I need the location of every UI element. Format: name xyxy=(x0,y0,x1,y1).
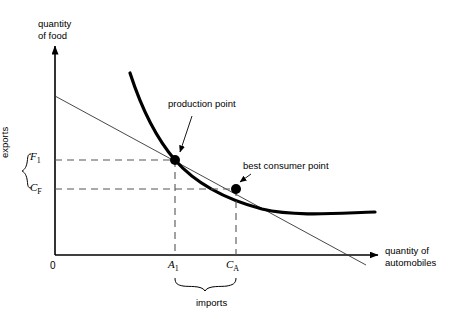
y-tick-f1-sub: 1 xyxy=(37,156,41,165)
x-tick-a1-sub: 1 xyxy=(175,264,179,273)
x-tick-a1-base: A xyxy=(168,258,175,270)
y-tick-cf-sub: F xyxy=(37,187,41,196)
imports-label: imports xyxy=(196,297,227,309)
x-axis-label-line2: automobiles xyxy=(385,257,436,269)
exports-label: exports xyxy=(0,127,11,158)
best-consumer-point-label: best consumer point xyxy=(243,160,329,172)
imports-brace xyxy=(175,278,236,291)
transformation-curve xyxy=(130,73,375,214)
x-tick-ca-sub: A xyxy=(233,264,239,273)
x-tick-a1: A1 xyxy=(168,258,179,273)
x-tick-ca: CA xyxy=(226,258,239,273)
y-tick-f1: F1 xyxy=(30,150,41,165)
production-point-marker xyxy=(170,155,180,165)
y-axis-label-line1: quantity xyxy=(38,18,71,30)
production-point-label: production point xyxy=(168,98,236,110)
y-axis-label: quantity of food xyxy=(38,18,71,42)
best-consumer-point-leader xyxy=(240,174,251,182)
x-axis-label-line1: quantity of xyxy=(385,245,436,257)
x-axis-label: quantity of automobiles xyxy=(385,245,436,269)
y-tick-f1-base: F xyxy=(30,150,37,162)
y-axis-label-line2: of food xyxy=(38,30,71,42)
production-point-leader xyxy=(180,116,192,152)
origin-label: 0 xyxy=(50,260,56,272)
economics-trade-diagram: quantity of food quantity of automobiles… xyxy=(0,0,461,319)
price-line xyxy=(55,96,366,265)
best-consumer-point-marker xyxy=(231,184,241,194)
y-tick-cf: CF xyxy=(30,181,42,196)
